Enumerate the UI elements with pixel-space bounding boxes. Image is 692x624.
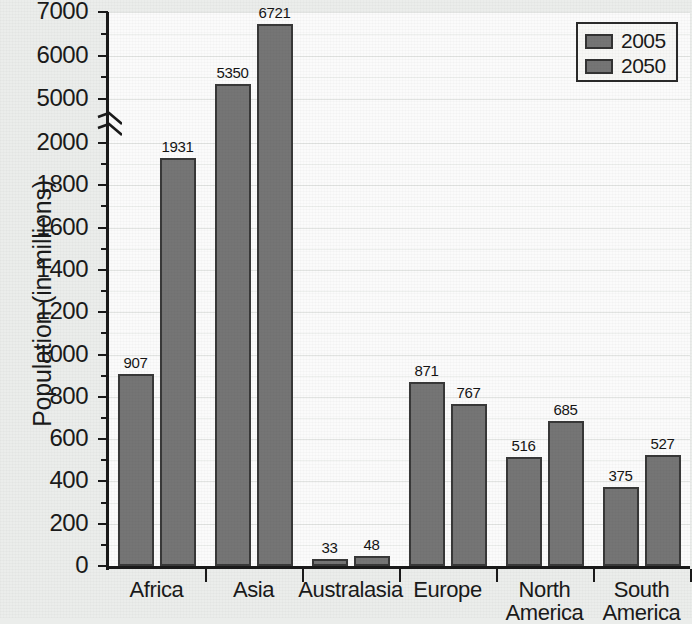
y-tick-major [98,11,108,13]
bar [548,421,584,566]
legend-swatch-2050 [585,59,613,74]
bar-value-label: 767 [439,385,499,400]
bar [354,556,390,566]
bar-value-label: 871 [397,363,457,378]
y-tick-minor [101,33,108,35]
y-tick-major [98,438,108,440]
category-separator-tick [399,569,401,582]
y-tick-major [98,184,108,186]
bar [257,24,293,566]
y-tick-minor [101,459,108,461]
bar-value-label: 516 [494,438,554,453]
category-separator-tick [690,569,692,582]
y-tick-major [98,523,108,525]
category-label-line: America [583,601,692,624]
bar [603,487,639,566]
y-tick-major [98,311,108,313]
y-tick-minor [101,76,108,78]
category-label-line: South [583,578,692,601]
bar-value-label: 907 [106,355,166,370]
gridline [108,99,690,100]
bar [409,382,445,566]
y-tick-label: 6000 [0,43,88,67]
category-separator-tick [593,569,595,582]
axis-break-icon [96,108,122,142]
bar [118,374,154,566]
y-axis-title: Population (in millions) [29,94,56,514]
legend-swatch-2005 [585,34,613,49]
y-tick-minor [101,332,108,334]
bar [312,559,348,566]
y-tick-major [98,396,108,398]
y-tick-minor [101,248,108,250]
y-tick-minor [101,417,108,419]
y-tick-major [98,227,108,229]
legend-label-2050: 2050 [621,55,666,77]
y-tick-minor [101,163,108,165]
y-tick-minor [101,290,108,292]
gridline [108,12,690,13]
bar [160,158,196,566]
y-tick-label: 7000 [0,0,88,23]
bar-value-label: 375 [591,468,651,483]
bar-value-label: 685 [536,402,596,417]
bar-value-label: 5350 [203,65,263,80]
category-separator-tick [496,569,498,582]
bar [506,457,542,566]
y-tick-label: 0 [0,553,88,577]
category-label: SouthAmerica [583,578,692,624]
y-tick-label: 200 [0,511,88,535]
bar [645,455,681,566]
legend: 2005 2050 [576,22,678,82]
y-tick-minor [101,502,108,504]
category-separator-tick [205,569,207,582]
y-tick-minor [101,375,108,377]
y-tick-minor [101,544,108,546]
bar-value-label: 1931 [148,139,208,154]
bar-value-label: 48 [342,537,402,552]
legend-label-2005: 2005 [621,30,666,52]
y-tick-major [98,55,108,57]
category-separator-tick [302,569,304,582]
bar [215,84,251,566]
y-tick-major [98,142,108,144]
bar [451,404,487,566]
y-tick-major [98,269,108,271]
y-tick-major [98,98,108,100]
y-tick-minor [101,205,108,207]
bar-value-label: 6721 [245,5,305,20]
y-tick-major [98,480,108,482]
x-axis-line [106,566,690,569]
y-tick-major [98,565,108,567]
bar-value-label: 527 [633,436,692,451]
